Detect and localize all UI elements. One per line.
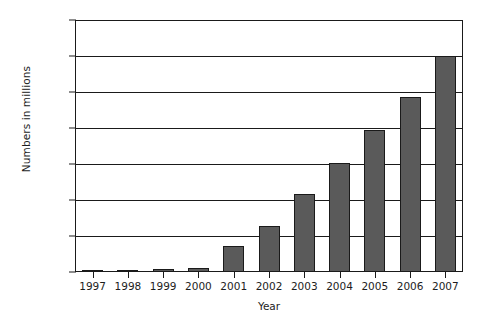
x-axis-tick-label: 2007 — [422, 280, 468, 292]
bar-series — [75, 20, 463, 272]
x-axis-tick-mark — [304, 272, 305, 278]
x-axis-tick-mark — [375, 272, 376, 278]
bar — [223, 246, 244, 272]
x-axis-tick-mark — [445, 272, 446, 278]
x-axis-title: Year — [75, 300, 463, 312]
bar — [329, 163, 350, 272]
y-axis-title: Numbers in millions — [20, 49, 32, 189]
x-axis-tick-mark — [128, 272, 129, 278]
x-axis-tick-mark — [410, 272, 411, 278]
bar — [400, 97, 421, 272]
bar — [364, 130, 385, 272]
x-axis-tick-mark — [234, 272, 235, 278]
x-axis-tick-mark — [269, 272, 270, 278]
bar-chart: Numbers in millions 01002003004005006007… — [0, 0, 480, 331]
x-axis-tick-mark — [340, 272, 341, 278]
bar — [294, 194, 315, 272]
x-axis-tick-mark — [93, 272, 94, 278]
x-axis-tick-mark — [163, 272, 164, 278]
x-axis-tick-mark — [198, 272, 199, 278]
bar — [259, 226, 280, 272]
bar — [435, 56, 456, 272]
